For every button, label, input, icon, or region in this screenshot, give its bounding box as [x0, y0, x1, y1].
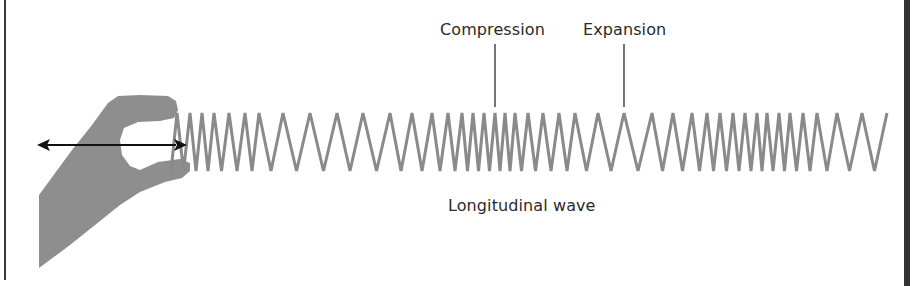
wave-caption: Longitudinal wave: [448, 196, 596, 215]
expansion-label: Expansion: [583, 20, 666, 39]
spring-zigzag: [171, 113, 887, 171]
compression-label: Compression: [440, 20, 545, 39]
hand-icon: [39, 95, 190, 268]
wave-diagram: [0, 0, 920, 286]
